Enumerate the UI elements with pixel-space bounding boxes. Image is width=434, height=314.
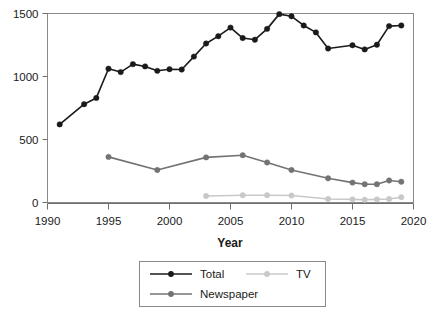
data-point [142,64,147,69]
x-axis-tick-label: 2015 [340,215,366,227]
data-point [325,176,330,181]
x-axis-tick-label: 2010 [279,215,305,227]
data-point [277,11,282,16]
data-point [264,160,269,165]
data-point [191,54,196,59]
data-point [94,95,99,100]
data-point [399,23,404,28]
x-axis-tick-label: 2005 [218,215,244,227]
series-newspaper [106,153,404,187]
legend-label: TV [296,268,311,280]
data-point [203,155,208,160]
data-series-group [57,11,404,202]
data-point [240,35,245,40]
data-point [252,37,257,42]
legend-label: Total [200,268,224,280]
data-point [130,61,135,66]
data-point [264,192,269,197]
data-point [301,23,306,28]
legend-marker-swatch [168,271,174,277]
x-axis-tick-label: 2000 [157,215,183,227]
data-point [289,193,294,198]
legend: TotalNewspaperTV [150,268,311,300]
data-point [203,41,208,46]
y-axis-tick-label: 0 [32,197,38,209]
y-axis-tick-label: 1500 [13,8,39,20]
data-point [350,43,355,48]
series-total [57,11,404,127]
data-point [313,30,318,35]
data-point [264,26,269,31]
data-point [362,182,367,187]
series-line [206,195,401,200]
legend-item-total[interactable]: Total [150,268,224,280]
data-point [179,67,184,72]
data-point [399,195,404,200]
data-point [118,69,123,74]
x-axis-tick-label: 1995 [96,215,122,227]
legend-item-newspaper[interactable]: Newspaper [150,288,258,300]
data-point [374,42,379,47]
data-point [167,66,172,71]
data-point [350,180,355,185]
plot-area-frame [48,14,414,203]
x-axis-tick-label: 2020 [401,215,427,227]
chart-figure: 050010001500 199019952000200520102015202… [0,0,434,314]
series-tv [203,192,404,202]
y-axis: 050010001500 [13,8,48,209]
legend-marker-swatch [264,271,270,277]
data-point [106,154,111,159]
y-axis-tick-label: 1000 [13,71,39,83]
data-point [155,167,160,172]
data-point [57,122,62,127]
data-point [386,23,391,28]
data-point [203,193,208,198]
data-point [289,167,294,172]
line-chart: 050010001500 199019952000200520102015202… [0,0,434,314]
data-point [216,33,221,38]
data-point [240,192,245,197]
data-point [81,102,86,107]
data-point [106,66,111,71]
y-axis-tick-label: 500 [19,134,38,146]
data-point [386,196,391,201]
data-point [374,182,379,187]
data-point [155,68,160,73]
data-point [362,197,367,202]
data-point [325,196,330,201]
data-point [325,46,330,51]
series-line [109,155,402,184]
data-point [289,14,294,19]
data-point [399,179,404,184]
legend-marker-swatch [168,291,174,297]
data-point [240,153,245,158]
legend-item-tv[interactable]: TV [246,268,311,280]
data-point [228,25,233,30]
data-point [362,47,367,52]
x-axis-title: Year [217,236,243,250]
data-point [350,197,355,202]
data-point [374,197,379,202]
legend-label: Newspaper [200,288,258,300]
data-point [386,178,391,183]
x-axis-tick-label: 1990 [35,215,61,227]
x-axis: 1990199520002005201020152020 [35,204,427,227]
